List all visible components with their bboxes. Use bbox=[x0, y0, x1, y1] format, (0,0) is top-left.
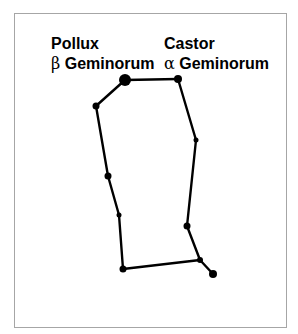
constellation-line bbox=[187, 140, 196, 226]
star-l3-icon bbox=[117, 213, 122, 218]
constellation-line bbox=[108, 176, 119, 215]
constellation-line bbox=[119, 215, 123, 269]
constellation-line bbox=[187, 226, 200, 260]
pollux-name-label: Pollux bbox=[51, 34, 99, 54]
constellation-lines bbox=[96, 79, 213, 274]
star-pollux-icon bbox=[119, 74, 131, 86]
constellation-line bbox=[178, 79, 196, 140]
castor-designation: Geminorum bbox=[179, 55, 269, 72]
constellation-line bbox=[125, 79, 178, 80]
pollux-designation-label: β Geminorum bbox=[51, 54, 155, 74]
constellation-line bbox=[96, 106, 108, 176]
star-r1-icon bbox=[194, 138, 199, 143]
star-l2-icon bbox=[105, 173, 112, 180]
beta-symbol: β bbox=[51, 54, 60, 73]
star-castor-icon bbox=[174, 75, 182, 83]
star-l1-icon bbox=[93, 103, 100, 110]
pollux-designation: Geminorum bbox=[65, 55, 155, 72]
star-tip-icon bbox=[209, 270, 217, 278]
star-r2-icon bbox=[184, 223, 191, 230]
alpha-symbol: α bbox=[164, 54, 175, 73]
constellation-stars bbox=[93, 74, 218, 278]
castor-designation-label: α Geminorum bbox=[164, 54, 269, 74]
star-l4-icon bbox=[120, 266, 127, 273]
star-r3-icon bbox=[197, 257, 203, 263]
constellation-diagram bbox=[0, 0, 298, 334]
castor-name-label: Castor bbox=[164, 34, 215, 54]
constellation-line bbox=[123, 260, 200, 269]
